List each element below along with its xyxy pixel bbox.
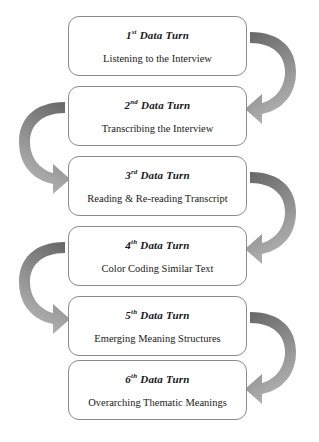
step-title-3: 3rd Data Turn [125, 170, 190, 181]
process-step-box-2[interactable]: 2nd Data Turn Transcribing the Interview [68, 86, 247, 146]
step-ordinal-3: rd [131, 168, 138, 176]
arrow-step3-to-step4 [245, 172, 296, 264]
process-step-box-6[interactable]: 6th Data Turn Overarching Thematic Meani… [68, 360, 247, 420]
process-step-box-3[interactable]: 3rd Data Turn Reading & Re-reading Trans… [68, 156, 247, 216]
step-title-1: 1st Data Turn [126, 30, 189, 41]
arrow-step1-to-step2 [245, 32, 296, 124]
step-description-1: Listening to the Interview [103, 54, 212, 65]
arrow-step2-to-step3 [19, 102, 70, 194]
step-title-tail-4: Data Turn [137, 239, 189, 251]
process-step-box-1[interactable]: 1st Data Turn Listening to the Interview [68, 16, 247, 76]
step-title-2: 2nd Data Turn [125, 100, 191, 111]
step-description-2: Transcribing the Interview [102, 124, 214, 135]
step-title-tail-3: Data Turn [138, 169, 190, 181]
process-step-box-5[interactable]: 5th Data Turn Emerging Meaning Structure… [68, 296, 247, 356]
process-flow-diagram: 1st Data Turn Listening to the Interview… [0, 0, 319, 442]
arrow-step5-to-step6 [245, 312, 296, 404]
step-ordinal-2: nd [130, 98, 138, 106]
step-title-5: 5th Data Turn [125, 310, 189, 321]
step-title-tail-1: Data Turn [137, 29, 189, 41]
step-description-5: Emerging Meaning Structures [94, 334, 220, 345]
step-description-6: Overarching Thematic Meanings [88, 398, 227, 409]
step-title-4: 4th Data Turn [125, 240, 189, 251]
step-title-tail-5: Data Turn [137, 309, 189, 321]
process-step-box-4[interactable]: 4th Data Turn Color Coding Similar Text [68, 226, 247, 286]
step-description-3: Reading & Re-reading Transcript [87, 194, 227, 205]
arrow-step4-to-step5 [19, 242, 70, 334]
step-title-tail-6: Data Turn [137, 373, 189, 385]
step-description-4: Color Coding Similar Text [102, 264, 214, 275]
step-title-tail-2: Data Turn [138, 99, 190, 111]
step-title-6: 6th Data Turn [125, 374, 189, 385]
